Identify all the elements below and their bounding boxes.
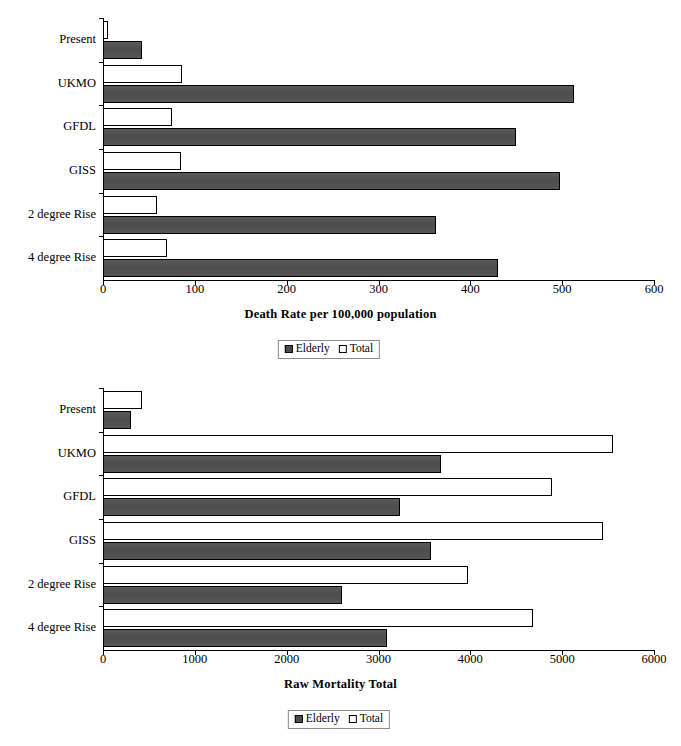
- bar-total: [103, 239, 167, 257]
- category-label: GISS: [69, 534, 96, 547]
- x-axis-tick-label: 500: [532, 283, 592, 296]
- x-axis-tick-label: 5000: [532, 653, 592, 666]
- category-label: 4 degree Rise: [28, 621, 96, 634]
- bar-total: [103, 108, 172, 126]
- legend-item-total: Total: [349, 713, 383, 725]
- x-axis-tick-label: 2000: [257, 653, 317, 666]
- death-rate-bars: [103, 18, 653, 280]
- bar-elderly: [103, 586, 342, 604]
- bar-elderly: [103, 172, 560, 190]
- category-tick: [99, 563, 104, 564]
- category-tick: [99, 475, 104, 476]
- death-rate-chart: PresentUKMOGFDLGISS2 degree Rise4 degree…: [0, 0, 681, 370]
- category-label: 2 degree Rise: [28, 208, 96, 221]
- x-axis-tick-label: 200: [257, 283, 317, 296]
- death-rate-x-axis-title: Death Rate per 100,000 population: [0, 307, 681, 322]
- bar-elderly: [103, 216, 436, 234]
- category-tick: [99, 105, 104, 106]
- legend-swatch-elderly-icon: [285, 345, 293, 353]
- legend-item-total: Total: [339, 343, 373, 355]
- category-tick: [99, 62, 104, 63]
- bar-elderly: [103, 455, 441, 473]
- death-rate-x-tick-labels: 0100200300400500600: [0, 283, 681, 301]
- legend-label-total: Total: [350, 343, 373, 355]
- legend-swatch-elderly-icon: [295, 715, 303, 723]
- bar-total: [103, 391, 142, 409]
- bar-total: [103, 566, 468, 584]
- death-rate-category-axis: PresentUKMOGFDLGISS2 degree Rise4 degree…: [0, 18, 96, 280]
- bar-elderly: [103, 498, 400, 516]
- bar-total: [103, 435, 613, 453]
- raw-mortality-legend: Elderly Total: [288, 710, 390, 729]
- bar-elderly: [103, 542, 431, 560]
- bar-total: [103, 152, 181, 170]
- category-tick: [99, 236, 104, 237]
- legend-label-elderly: Elderly: [306, 713, 340, 725]
- bar-total: [103, 65, 182, 83]
- x-axis-tick-label: 600: [624, 283, 681, 296]
- legend-swatch-total-icon: [349, 715, 357, 723]
- category-label: UKMO: [58, 77, 96, 90]
- x-axis-tick-label: 100: [165, 283, 225, 296]
- category-label: UKMO: [58, 447, 96, 460]
- bar-elderly: [103, 41, 142, 59]
- x-axis-tick-label: 400: [440, 283, 500, 296]
- bar-elderly: [103, 85, 574, 103]
- category-label: Present: [59, 33, 96, 46]
- raw-mortality-plot: PresentUKMOGFDLGISS2 degree Rise4 degree…: [0, 388, 681, 650]
- death-rate-plot: PresentUKMOGFDLGISS2 degree Rise4 degree…: [0, 18, 681, 280]
- category-label: GFDL: [63, 490, 96, 503]
- raw-mortality-x-tick-labels: 0100020003000400050006000: [0, 653, 681, 671]
- raw-mortality-bars: [103, 388, 653, 650]
- category-tick: [99, 18, 104, 19]
- x-axis-tick-label: 0: [73, 653, 133, 666]
- category-label: 4 degree Rise: [28, 251, 96, 264]
- category-tick: [99, 388, 104, 389]
- raw-mortality-chart: PresentUKMOGFDLGISS2 degree Rise4 degree…: [0, 372, 681, 746]
- x-axis-tick-label: 6000: [624, 653, 681, 666]
- legend-item-elderly: Elderly: [295, 713, 340, 725]
- legend-swatch-total-icon: [339, 345, 347, 353]
- x-axis-tick-label: 300: [349, 283, 409, 296]
- bar-elderly: [103, 629, 387, 647]
- bar-elderly: [103, 128, 516, 146]
- bar-elderly: [103, 411, 131, 429]
- legend-label-total: Total: [360, 713, 383, 725]
- category-tick: [99, 193, 104, 194]
- bar-elderly: [103, 259, 498, 277]
- category-label: GFDL: [63, 120, 96, 133]
- category-tick: [99, 606, 104, 607]
- legend-label-elderly: Elderly: [296, 343, 330, 355]
- x-axis-tick-label: 1000: [165, 653, 225, 666]
- category-tick: [99, 432, 104, 433]
- x-axis-tick-label: 3000: [349, 653, 409, 666]
- category-label: GISS: [69, 164, 96, 177]
- category-tick: [99, 519, 104, 520]
- bar-total: [103, 478, 552, 496]
- death-rate-legend: Elderly Total: [278, 340, 380, 359]
- bar-total: [103, 522, 603, 540]
- bar-total: [103, 609, 533, 627]
- category-tick: [99, 149, 104, 150]
- category-label: Present: [59, 403, 96, 416]
- x-axis-tick-label: 0: [73, 283, 133, 296]
- legend-item-elderly: Elderly: [285, 343, 330, 355]
- raw-mortality-category-axis: PresentUKMOGFDLGISS2 degree Rise4 degree…: [0, 388, 96, 650]
- bar-total: [103, 196, 157, 214]
- x-axis-tick-label: 4000: [440, 653, 500, 666]
- raw-mortality-x-axis-title: Raw Mortality Total: [0, 677, 681, 692]
- category-label: 2 degree Rise: [28, 578, 96, 591]
